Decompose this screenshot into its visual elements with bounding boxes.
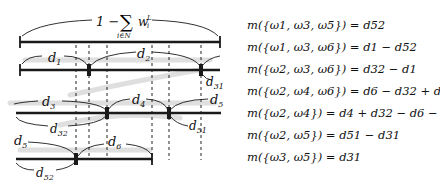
svg-text:∑: ∑ [120, 11, 133, 32]
equation: m({ω3, ω5}) = d31 [247, 146, 440, 168]
svg-text:i: i [147, 22, 149, 30]
equation: m({ω2, ω4}) = d4 + d32 − d6 − d52 [247, 102, 440, 124]
top-sum-label: 1 − ∑ i∈N w L i [96, 11, 152, 40]
label-d6: d6 [108, 134, 121, 151]
svg-text:1 −: 1 − [96, 14, 119, 29]
svg-text:i∈N: i∈N [117, 32, 131, 40]
equation: m({ω2, ω4, ω6}) = d6 − d32 + d52 [247, 80, 440, 102]
label-d3: d3 [42, 94, 55, 111]
equation: m({ω1, ω3, ω5}) = d52 [247, 14, 440, 36]
equation: m({ω2, ω3, ω6}) = d32 − d1 [247, 58, 440, 80]
label-d5-row3: d5 [210, 92, 223, 109]
equation: m({ω1, ω3, ω6}) = d1 − d52 [247, 36, 440, 58]
equation-list: m({ω1, ω3, ω5}) = d52 m({ω1, ω3, ω6}) = … [247, 14, 440, 168]
label-d1: d1 [48, 50, 61, 67]
label-d4: d4 [132, 92, 145, 109]
label-d2: d2 [137, 46, 150, 63]
interval-diagram: 1 − ∑ i∈N w L i d1 d2 d31 d3 d4 d5 d32 [0, 0, 240, 192]
label-d5-row4: d5 [14, 133, 27, 150]
label-d52: d52 [36, 166, 54, 182]
svg-text:L: L [146, 14, 152, 22]
label-d31: d31 [206, 75, 224, 91]
equation: m({ω2, ω5}) = d51 − d31 [247, 124, 440, 146]
label-d51: d51 [189, 119, 207, 135]
